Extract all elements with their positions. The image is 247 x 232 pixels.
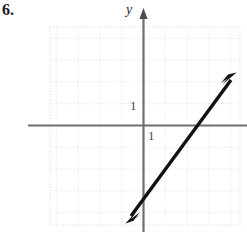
- coordinate-graph-figure: 1 1 y: [0, 0, 247, 232]
- y-axis-tick-label-1: 1: [130, 99, 137, 112]
- x-axis-tick-label-1: 1: [148, 129, 155, 142]
- y-axis-name-label: y: [126, 3, 132, 17]
- worksheet-figure-page: 6.: [0, 0, 247, 232]
- graph-svg: [0, 0, 247, 232]
